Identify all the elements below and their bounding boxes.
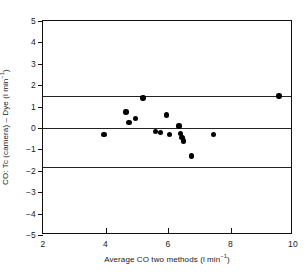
data-point bbox=[101, 132, 106, 137]
data-point bbox=[123, 109, 128, 114]
lower-limit-of-agreement bbox=[43, 167, 291, 168]
data-point bbox=[189, 153, 194, 158]
y-tick-label: 1 bbox=[31, 102, 36, 111]
y-tick-mark bbox=[38, 192, 44, 193]
y-tick-mark bbox=[38, 85, 44, 86]
data-point bbox=[167, 132, 172, 137]
y-tick-mark bbox=[38, 214, 44, 215]
x-tick-mark bbox=[168, 228, 169, 233]
data-point bbox=[140, 95, 145, 100]
y-tick-mark bbox=[38, 171, 44, 172]
bland-altman-chart: −5−4−3−2−1012345 246810 CO: Tc (camera) … bbox=[0, 0, 308, 272]
y-tick-label: −5 bbox=[26, 231, 36, 240]
data-point bbox=[211, 132, 216, 137]
x-tick-label: 4 bbox=[103, 240, 108, 249]
data-point bbox=[158, 130, 163, 135]
y-tick-label: 0 bbox=[31, 124, 36, 133]
y-axis-title: CO: Tc (camera) – Dye (l min−1) bbox=[2, 69, 10, 185]
y-tick-mark bbox=[38, 149, 44, 150]
y-tick-label: 4 bbox=[31, 38, 36, 47]
x-tick-label: 8 bbox=[228, 240, 233, 249]
data-point bbox=[126, 120, 131, 125]
x-tick-label: 10 bbox=[288, 240, 298, 249]
y-tick-label: −4 bbox=[26, 209, 36, 218]
x-axis-title: Average CO two methods (l min−1) bbox=[104, 256, 230, 264]
y-tick-label: −1 bbox=[26, 145, 36, 154]
x-tick-label: 6 bbox=[166, 240, 171, 249]
upper-limit-of-agreement bbox=[43, 96, 291, 97]
y-tick-label: 3 bbox=[31, 60, 36, 69]
data-point bbox=[133, 116, 138, 121]
y-tick-mark bbox=[38, 107, 44, 108]
y-tick-label: −3 bbox=[26, 188, 36, 197]
y-tick-label: 5 bbox=[31, 17, 36, 26]
y-tick-mark bbox=[38, 21, 44, 22]
plot-area: −5−4−3−2−1012345 246810 bbox=[42, 20, 292, 234]
data-point bbox=[276, 93, 281, 98]
x-tick-mark bbox=[106, 228, 107, 233]
mean-difference bbox=[43, 128, 291, 129]
y-tick-mark bbox=[38, 64, 44, 65]
data-point bbox=[181, 138, 186, 143]
y-tick-mark bbox=[38, 42, 44, 43]
y-tick-label: −2 bbox=[26, 167, 36, 176]
y-tick-label: 2 bbox=[31, 81, 36, 90]
y-tick-mark bbox=[38, 235, 44, 236]
data-point bbox=[176, 123, 181, 128]
y-tick-mark bbox=[38, 128, 44, 129]
x-tick-mark bbox=[231, 228, 232, 233]
x-tick-label: 2 bbox=[41, 240, 46, 249]
data-point bbox=[164, 112, 169, 117]
